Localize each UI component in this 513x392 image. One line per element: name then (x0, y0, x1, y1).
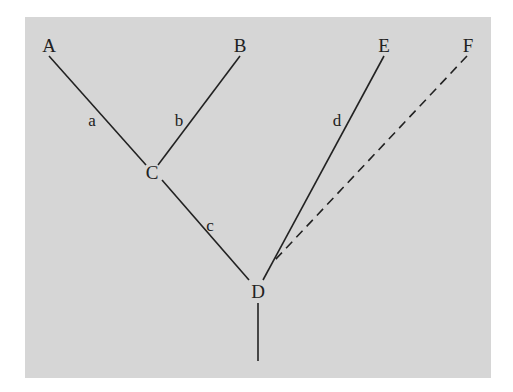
node-label-f: F (463, 35, 474, 56)
node-label-e: E (378, 35, 390, 56)
edge-label-a: a (88, 111, 96, 130)
node-label-b: B (234, 35, 247, 56)
node-label-d: D (251, 281, 265, 302)
node-label-c: C (146, 162, 159, 183)
edge-label-b: b (175, 111, 184, 130)
tree-diagram: A B E F C D a b c d (0, 0, 513, 392)
edge-a (49, 56, 146, 165)
edge-d (263, 56, 384, 280)
edge-f-dashed (275, 56, 467, 260)
node-label-a: A (42, 35, 56, 56)
edge-label-c: c (206, 216, 214, 235)
edge-label-d: d (333, 111, 342, 130)
edge-b (158, 56, 240, 165)
